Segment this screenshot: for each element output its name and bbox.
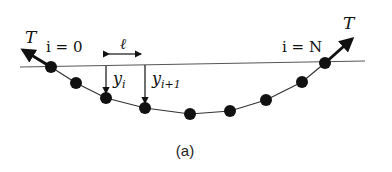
y-i-label: yi xyxy=(112,69,126,91)
start-index-label: i = 0 xyxy=(46,38,82,56)
end-index-label: i = N xyxy=(282,38,322,56)
y-i1-label: yi+1 xyxy=(151,69,181,91)
mass-dot xyxy=(139,102,151,114)
mass-dot xyxy=(70,77,82,89)
mass-dot xyxy=(224,105,236,117)
spacing-label: ℓ xyxy=(120,35,126,53)
mass-dot xyxy=(184,108,196,120)
tension-label-right: T xyxy=(343,13,356,33)
string-curve xyxy=(51,63,325,114)
mass-dot xyxy=(319,57,331,69)
string-masses-diagram: T i = 0 ℓ yi yi+1 i = N T (a) xyxy=(0,0,392,172)
figure-caption: (a) xyxy=(176,142,194,159)
equilibrium-line xyxy=(20,61,365,67)
mass-dot xyxy=(260,94,272,106)
mass-dot xyxy=(100,92,112,104)
tension-label-left: T xyxy=(25,27,38,47)
mass-dot xyxy=(45,61,57,73)
mass-dot xyxy=(296,76,308,88)
